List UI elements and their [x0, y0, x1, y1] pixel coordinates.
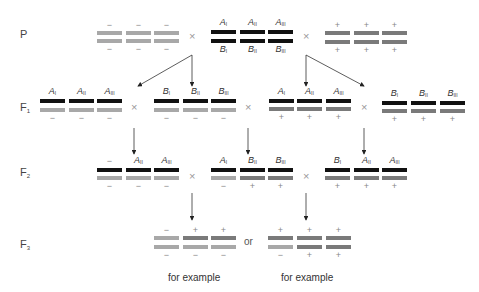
gene-label: AI: [211, 155, 236, 165]
cross-symbol: ×: [189, 30, 195, 42]
cross-symbol: ×: [245, 101, 251, 113]
chromosome-bar: [154, 245, 179, 249]
chromosome-bar: [183, 108, 208, 112]
chromosome-bar: [97, 176, 122, 180]
allele-sign: −: [97, 21, 122, 30]
gene-label: AI: [269, 86, 294, 96]
allele-sign: +: [326, 251, 351, 260]
cross-symbol: ×: [361, 101, 367, 113]
caption-right: for example: [281, 272, 333, 283]
allele-sign: −: [211, 251, 236, 260]
chromosome-bar: [382, 101, 407, 105]
or-label: or: [244, 236, 253, 247]
gene-label: AIII: [326, 86, 351, 96]
allele-sign: −: [69, 114, 94, 123]
allele-sign: −: [126, 182, 151, 191]
chromosome-bar: [240, 176, 265, 180]
allele-sign: −: [154, 114, 179, 123]
chromosome-bar: [269, 107, 294, 111]
chromosome-bar: [240, 30, 265, 34]
chromosome-bar: [382, 168, 407, 172]
chromosome-bar: [154, 108, 179, 112]
allele-sign: −: [154, 251, 179, 260]
gene-label: BIII: [440, 88, 465, 98]
chromosome-bar: [326, 107, 351, 111]
chromosome-bar: [211, 108, 236, 112]
chromosome-bar: [440, 101, 465, 105]
chromosome-bar: [268, 30, 293, 34]
chromosome-bar: [211, 236, 236, 240]
caption-left: for example: [168, 272, 220, 283]
gene-label: BIII: [268, 155, 293, 165]
chromosome-bar: [154, 236, 179, 240]
allele-sign: −: [154, 21, 179, 30]
chromosome-bar: [211, 99, 236, 103]
chromosome-bar: [126, 168, 151, 172]
gene-label: AI: [211, 17, 236, 27]
chromosome-bar: [297, 245, 322, 249]
chromosome-bar: [97, 31, 122, 35]
allele-sign: +: [325, 21, 350, 30]
chromosome-bar: [354, 168, 379, 172]
chromosome-bar: [326, 245, 351, 249]
allele-sign: +: [297, 113, 322, 122]
gene-label: BI: [211, 44, 236, 54]
gene-label: AI: [40, 86, 65, 96]
allele-sign: −: [154, 226, 179, 235]
allele-sign: −: [97, 182, 122, 191]
chromosome-bar: [211, 245, 236, 249]
allele-sign: −: [97, 45, 122, 54]
allele-sign: −: [211, 114, 236, 123]
allele-sign: −: [40, 114, 65, 123]
chromosome-bar: [382, 176, 407, 180]
cross-symbol: ×: [131, 101, 137, 113]
chromosome-bar: [69, 108, 94, 112]
chromosome-bar: [297, 107, 322, 111]
allele-sign: −: [183, 114, 208, 123]
gene-label: AIII: [382, 155, 407, 165]
gene-label: BI: [382, 88, 407, 98]
chromosome-bar: [297, 99, 322, 103]
chromosome-bar: [268, 39, 293, 43]
cross-symbol: ×: [303, 30, 309, 42]
chromosome-bar: [240, 39, 265, 43]
chromosome-bar: [183, 99, 208, 103]
gene-label: AII: [297, 86, 322, 96]
allele-sign: +: [354, 46, 379, 55]
chromosome-bar: [382, 109, 407, 113]
allele-sign: +: [354, 21, 379, 30]
chromosome-bar: [154, 39, 179, 43]
allele-sign: +: [354, 182, 379, 191]
gene-label: AIII: [154, 155, 179, 165]
allele-sign: +: [297, 251, 322, 260]
allele-sign: +: [326, 113, 351, 122]
gene-label: BII: [240, 44, 265, 54]
chromosome-bar: [297, 236, 322, 240]
chromosome-bar: [40, 99, 65, 103]
gene-label: BII: [183, 86, 208, 96]
chromosome-bar: [325, 40, 350, 44]
chromosome-bar: [411, 109, 436, 113]
chromosome-bar: [211, 39, 236, 43]
chromosome-bar: [268, 236, 293, 240]
chromosome-bar: [154, 31, 179, 35]
gene-label: BII: [240, 155, 265, 165]
allele-sign: −: [183, 251, 208, 260]
allele-sign: −: [126, 21, 151, 30]
gene-label: BIII: [268, 44, 293, 54]
allele-sign: −: [211, 182, 236, 191]
chromosome-bar: [154, 176, 179, 180]
gene-label: AII: [69, 86, 94, 96]
chromosome-bar: [325, 31, 350, 35]
chromosome-bar: [325, 168, 350, 172]
gene-label: BII: [411, 88, 436, 98]
allele-sign: +: [268, 182, 293, 191]
allele-sign: +: [411, 115, 436, 124]
allele-sign: +: [440, 115, 465, 124]
allele-sign: +: [268, 226, 293, 235]
chromosome-bar: [126, 176, 151, 180]
chromosome-bar: [154, 99, 179, 103]
gene-label: AII: [354, 155, 379, 165]
chromosome-bar: [69, 99, 94, 103]
chromosome-bar: [211, 168, 236, 172]
